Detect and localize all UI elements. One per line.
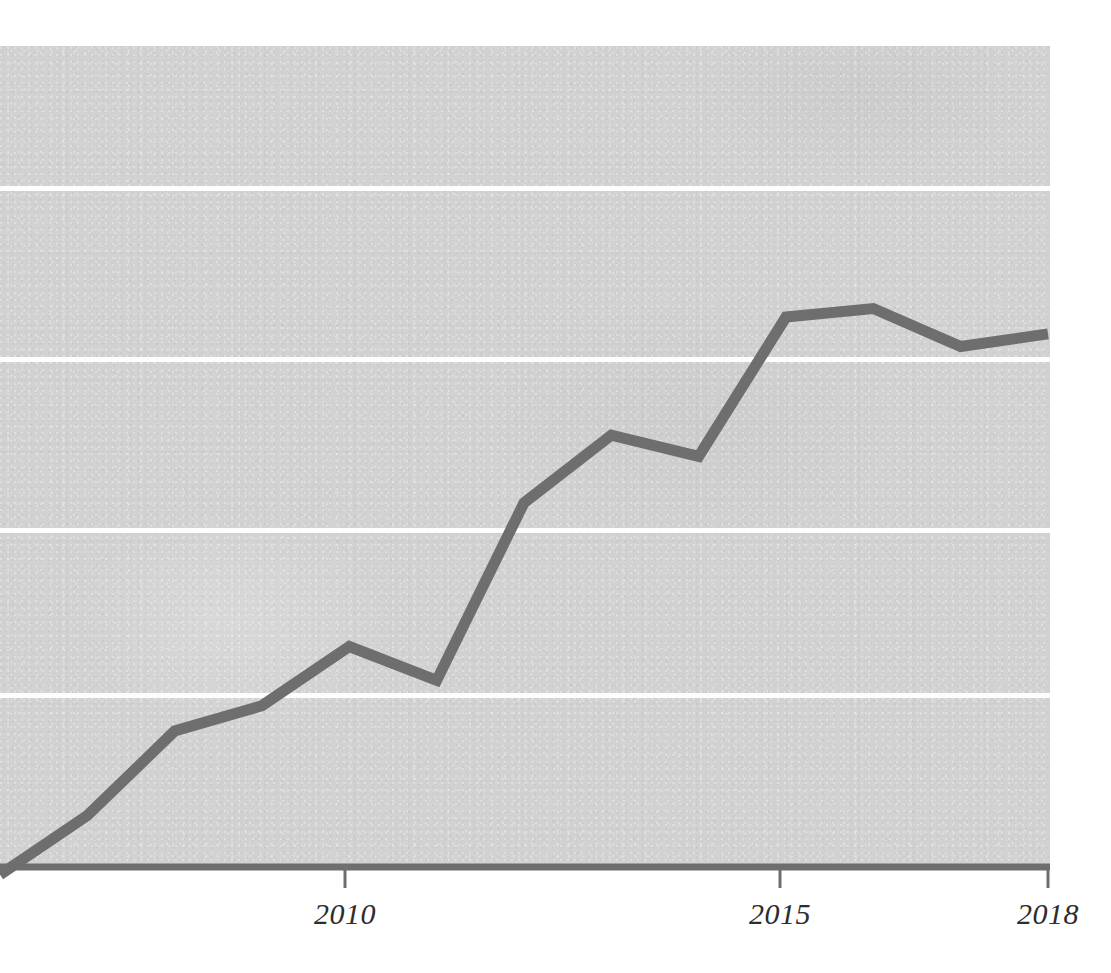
gridline-1 bbox=[0, 186, 1050, 191]
gridline-4 bbox=[0, 693, 1050, 698]
line-chart: 2010 2015 2018 bbox=[0, 0, 1111, 973]
plot-area bbox=[0, 46, 1050, 867]
paper-grain-texture bbox=[0, 46, 1050, 867]
x-tick-label-2018: 2018 bbox=[1017, 897, 1079, 931]
x-tick-label-2010: 2010 bbox=[314, 897, 376, 931]
gridline-3 bbox=[0, 528, 1050, 533]
paper-blotch-texture bbox=[0, 46, 1050, 867]
x-tick-label-2015: 2015 bbox=[749, 897, 811, 931]
gridline-2 bbox=[0, 357, 1050, 362]
